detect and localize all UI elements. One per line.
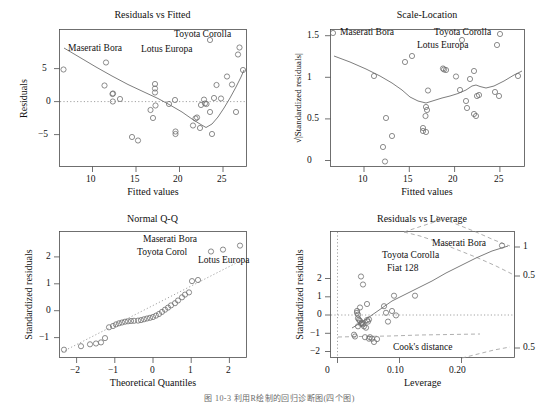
panel-2-ytick-1-0: 1 (307, 72, 312, 82)
panel-4-ytick-2: 2 (317, 273, 322, 283)
panel-3-ytick-neg1: −1 (39, 332, 49, 342)
panel-1-canvas (0, 0, 280, 200)
panel-3-annotation-lotus: Lotus Europa (198, 255, 249, 265)
panel-1-xtick-20: 20 (173, 174, 183, 184)
panel-4-cook-label-0-5-upper: 0.5 (523, 270, 535, 280)
panel-1-xtick-10: 10 (86, 174, 96, 184)
panel-4-annotation-maserati: Maserati Bora (432, 238, 486, 248)
panel-residuals-vs-fitted: Residuals vs Fitted (0, 0, 280, 200)
panel-4-ytick-neg1: −1 (310, 328, 320, 338)
panel-1-yaxis-label: Residuals (18, 64, 29, 134)
panel-1-annotation-lotus: Lotus Europa (141, 44, 192, 54)
panel-4-ytick-0: 0 (317, 309, 322, 319)
panel-residuals-vs-leverage: Residuals vs Leverage (280, 200, 559, 405)
panel-2-annotation-maserati: Maserati Bora (340, 27, 394, 37)
panel-2-ytick-1-5: 1.5 (307, 30, 319, 40)
panel-3-ytick-1: 1 (46, 278, 51, 288)
panel-1-annotation-toyota: Toyota Corolla (174, 29, 231, 39)
panel-2-ytick-0-0: 0 (307, 155, 312, 165)
panel-3-ytick-0: 0 (46, 305, 51, 315)
figure-caption: 图 10-3 利用R绘制的回归诊断图(四个图) (0, 392, 559, 403)
panel-3-xtick-neg2: −2 (70, 365, 80, 375)
panel-4-xtick-0-10: 0.10 (387, 365, 404, 375)
panel-3-canvas (0, 200, 280, 405)
panel-3-xtick-1: 1 (188, 365, 193, 375)
panel-4-xaxis-label: Leverage (385, 377, 460, 388)
panel-3-annotation-toyota: Toyota Corol (137, 247, 187, 257)
panel-4-cook-label-0-5-lower: 0.5 (523, 342, 535, 352)
panel-scale-location: Scale-Location (280, 0, 559, 200)
panel-1-ytick-neg5: −5 (38, 129, 48, 139)
panel-1-ytick-0: 0 (46, 96, 51, 106)
panel-2-xtick-20: 20 (448, 174, 458, 184)
panel-1-xtick-25: 25 (217, 174, 227, 184)
panel-4-annotation-cooks-distance: Cook's distance (393, 342, 453, 352)
panel-2-canvas (280, 0, 559, 200)
panel-2-xaxis-label: Fitted values (382, 186, 472, 197)
panel-4-canvas (280, 200, 559, 405)
panel-1-annotation-maserati: Maserati Bora (68, 43, 122, 53)
panel-2-ytick-0-5: 0.5 (307, 113, 319, 123)
panel-3-ytick-2: 2 (46, 251, 51, 261)
panel-3-xaxis-label: Theoretical Quantiles (98, 377, 208, 388)
panel-2-xtick-25: 25 (494, 174, 504, 184)
panel-4-ytick-neg2: −2 (310, 346, 320, 356)
panel-normal-qq: Normal Q-Q (0, 200, 280, 405)
panel-2-xtick-10: 10 (358, 174, 368, 184)
panel-4-xtick-0-00: 0 (325, 365, 330, 375)
panel-3-annotation-maserati: Maserati Bora (143, 234, 197, 244)
figure-root: Residuals vs Fitted (0, 0, 559, 405)
panel-3-yaxis-label: Standardized residuals (23, 230, 34, 360)
panel-3-xtick-0: 0 (150, 365, 155, 375)
panel-4-annotation-fiat: Fiat 128 (387, 263, 418, 273)
panel-4-xtick-0-20: 0.20 (449, 365, 466, 375)
panel-3-xtick-neg1: −1 (108, 365, 118, 375)
panel-2-annotation-toyota: Toyota Corolla (434, 27, 491, 37)
panel-4-yaxis-label: Standardized residuals (294, 230, 305, 360)
panel-4-cook-label-1: 1 (523, 241, 528, 251)
panel-2-yaxis-label: √|Standardized residuals| (293, 18, 303, 178)
panel-2-xtick-15: 15 (403, 174, 413, 184)
panel-1-ytick-5: 5 (42, 63, 47, 73)
panel-4-ytick-1: 1 (317, 291, 322, 301)
panel-4-annotation-toyota: Toyota Corolla (382, 250, 439, 260)
panel-3-xtick-2: 2 (226, 365, 231, 375)
panel-2-annotation-lotus: Lotus Europa (417, 40, 468, 50)
panel-1-xaxis-label: Fitted values (108, 186, 198, 197)
panel-1-xtick-15: 15 (130, 174, 140, 184)
